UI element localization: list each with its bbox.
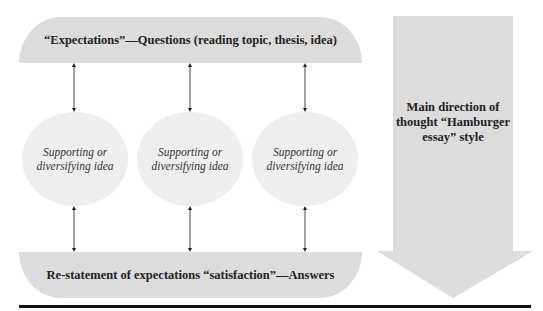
direction-arrow-label: Main direction of thought “Hamburger ess… [393, 100, 513, 145]
supporting-idea-circle-1: Supporting or diversifying idea [22, 112, 128, 206]
answers-label: Re-statement of expectations “satisfacti… [47, 268, 335, 283]
supporting-idea-circle-2: Supporting or diversifying idea [137, 112, 243, 206]
answers-bar: Re-statement of expectations “satisfacti… [19, 252, 362, 298]
supporting-idea-label: Supporting or diversifying idea [32, 145, 118, 173]
expectations-label: “Expectations”—Questions (reading topic,… [44, 33, 337, 48]
direction-arrow-shape [377, 16, 533, 298]
supporting-idea-label: Supporting or diversifying idea [262, 145, 348, 173]
supporting-idea-label: Supporting or diversifying idea [147, 145, 233, 173]
bottom-rule-divider [19, 305, 531, 308]
supporting-idea-circle-3: Supporting or diversifying idea [252, 112, 358, 206]
expectations-bar: “Expectations”—Questions (reading topic,… [19, 17, 362, 63]
